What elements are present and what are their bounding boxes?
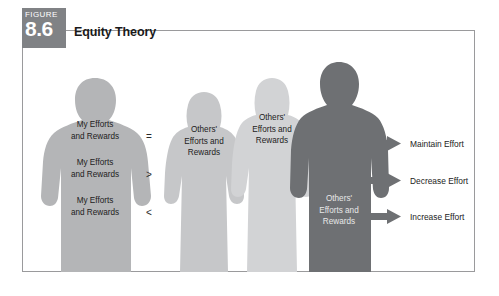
arrow-right-icon [367,136,401,151]
outcome-decrease-effort-label: Decrease Effort [410,176,468,186]
operator-less-than: < [146,207,152,218]
operator-equal: = [146,131,152,142]
arrow-right-icon [367,173,401,188]
figure-tab-number: 8.6 [25,18,66,40]
figure-number-tab: FIGURE 8.6 [22,8,66,48]
other-silhouette-3 [289,60,389,272]
arrow-right-icon [367,209,401,224]
self-silhouette [39,76,151,272]
figure-stage: My Efforts and Rewards My Efforts and Re… [22,30,475,272]
other-silhouette-3-shape [289,60,389,272]
operator-greater-than: > [146,169,152,180]
outcome-increase-effort-label: Increase Effort [410,212,464,222]
figure-title: Equity Theory [74,25,156,39]
figure-container: FIGURE 8.6 Equity Theory My Efforts and … [0,0,499,296]
outcome-maintain-effort-label: Maintain Effort [410,139,464,149]
outcome-maintain-effort: Maintain Effort [367,136,464,151]
self-silhouette-shape [39,76,151,272]
outcome-increase-effort: Increase Effort [367,209,464,224]
outcome-decrease-effort: Decrease Effort [367,173,468,188]
